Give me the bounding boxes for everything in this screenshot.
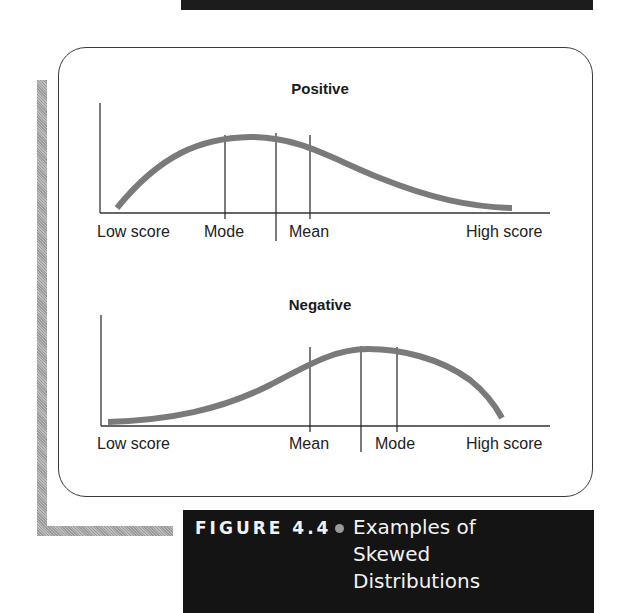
- positive-low-score-label: Low score: [97, 223, 170, 241]
- negative-title: Negative: [240, 296, 400, 313]
- negative-low-score-label: Low score: [97, 435, 170, 453]
- negative-mean-label: Mean: [289, 435, 329, 453]
- figure-title-line: Distributions: [353, 568, 553, 595]
- figure-title: Examples of Skewed Distributions: [353, 514, 553, 595]
- figure-title-line: Examples of: [353, 514, 553, 541]
- caption-bullet-icon: [335, 524, 344, 533]
- positive-mode-label: Mode: [204, 223, 244, 241]
- figure-caption: FIGURE 4.4 Examples of Skewed Distributi…: [183, 510, 594, 613]
- positive-mean-label: Mean: [289, 223, 329, 241]
- negative-high-score-label: High score: [466, 435, 542, 453]
- negative-mode-label: Mode: [375, 435, 415, 453]
- negative-curve: [108, 349, 502, 422]
- figure-number: FIGURE 4.4: [195, 518, 331, 538]
- positive-plot: [100, 103, 550, 241]
- positive-title: Positive: [240, 80, 400, 97]
- figure-title-line: Skewed: [353, 541, 553, 568]
- positive-curve: [117, 137, 512, 208]
- positive-high-score-label: High score: [466, 223, 542, 241]
- negative-plot: [101, 315, 550, 452]
